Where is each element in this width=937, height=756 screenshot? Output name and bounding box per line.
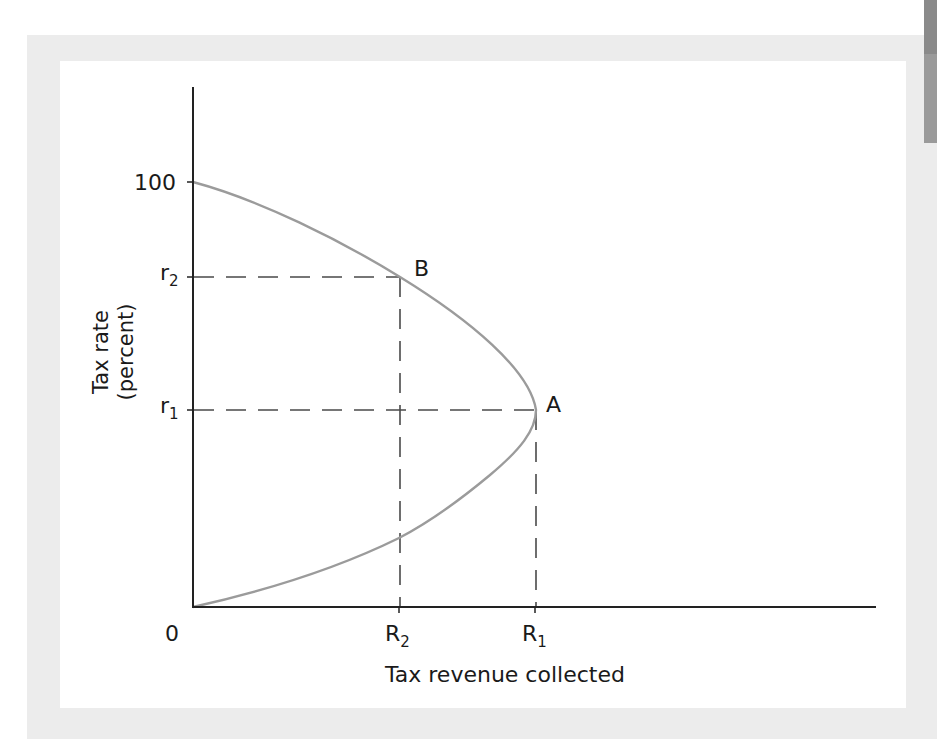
x-axis-label: Tax revenue collected xyxy=(385,664,625,686)
x-tick-R1: R1 xyxy=(522,623,547,650)
y-tick-r1-sub: 1 xyxy=(169,405,179,423)
y-axis-label: Tax rate (percent) xyxy=(89,304,139,401)
laffer-curve xyxy=(193,182,536,607)
y-tick-r1: r1 xyxy=(160,395,179,422)
x-tick-R1-sub: 1 xyxy=(537,633,547,651)
x-tick-R2-base: R xyxy=(385,621,400,646)
y-tick-r2: r2 xyxy=(160,262,179,289)
y-axis-label-line2: (percent) xyxy=(114,304,139,401)
y-tick-100: 100 xyxy=(134,172,176,194)
x-tick-R1-base: R xyxy=(522,621,537,646)
y-tick-r2-sub: 2 xyxy=(169,272,179,290)
point-b-label: B xyxy=(414,258,429,280)
y-axis-label-line1: Tax rate xyxy=(89,304,114,401)
x-tick-R2: R2 xyxy=(385,623,410,650)
point-a-label: A xyxy=(546,394,561,416)
laffer-curve-chart xyxy=(0,0,937,756)
y-tick-r2-base: r xyxy=(160,260,169,285)
x-tick-R2-sub: 2 xyxy=(400,633,410,651)
origin-label: 0 xyxy=(165,623,179,645)
y-tick-r1-base: r xyxy=(160,393,169,418)
